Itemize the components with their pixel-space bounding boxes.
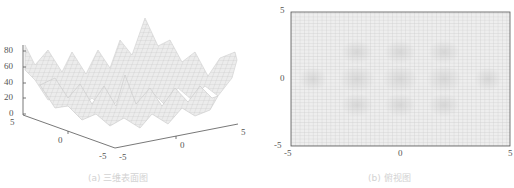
y-tick-label: -5 bbox=[99, 152, 107, 161]
z-tick-label: 80 bbox=[4, 46, 13, 55]
top-view-panel: 5 0 -5 -5 0 5 (b) 俯视图 bbox=[260, 0, 514, 188]
x-tick-label: -5 bbox=[119, 153, 127, 162]
z-tick-label: 60 bbox=[4, 62, 13, 71]
z-tick-label: 40 bbox=[4, 78, 13, 87]
x-tick-label: 0 bbox=[180, 141, 185, 150]
z-tick-label: 20 bbox=[4, 93, 13, 102]
x-tick-label: 5 bbox=[508, 149, 513, 158]
caption-b: (b) 俯视图 bbox=[368, 171, 411, 184]
y-tick-label: 5 bbox=[280, 6, 285, 15]
y-tick-label: 5 bbox=[10, 118, 15, 127]
x-tick-label: -5 bbox=[284, 149, 292, 158]
y-tick-label: 0 bbox=[58, 136, 63, 145]
caption-a: (a) 三维表面图 bbox=[88, 171, 148, 184]
top-view-canvas bbox=[260, 0, 514, 188]
surface-plot-canvas bbox=[0, 0, 260, 188]
x-tick-label: 0 bbox=[398, 149, 403, 158]
y-axis-3d bbox=[23, 115, 115, 148]
x-tick-label: 5 bbox=[241, 128, 246, 137]
surface-plot-panel: 80 60 40 20 0 5 0 -5 -5 0 5 (a) 三维表面图 bbox=[0, 0, 260, 188]
y-tick-label: 0 bbox=[280, 74, 285, 83]
x-axis-3d bbox=[115, 124, 238, 148]
y-tick-label: -5 bbox=[274, 141, 282, 150]
